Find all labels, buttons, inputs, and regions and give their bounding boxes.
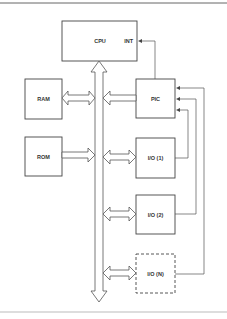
ion-label: I/O (N) (147, 271, 164, 277)
io2-bus-arrow (103, 207, 136, 221)
ion-pic-line (175, 88, 204, 274)
block-diagram: CPU INT RAM PIC ROM I/O (1) I/O (2) I/O … (0, 0, 227, 319)
ion-bus-arrow (103, 266, 136, 280)
rom-bus-arrow (62, 148, 95, 162)
ram-bus-arrow (62, 91, 95, 105)
rom-label: ROM (37, 154, 50, 160)
pic-label: PIC (151, 96, 160, 102)
io1-label: I/O (1) (148, 155, 164, 161)
io1-arrowhead-icon (176, 108, 180, 112)
cpu-label: CPU (94, 38, 106, 44)
io2-arrowhead-icon (176, 97, 180, 101)
int-arrowhead-icon (138, 39, 142, 43)
pic-bus-arrow (103, 91, 136, 105)
ion-arrowhead-icon (176, 86, 180, 90)
io2-label: I/O (2) (148, 212, 164, 218)
io2-pic-line (175, 99, 196, 214)
io1-bus-arrow (103, 150, 136, 164)
ram-label: RAM (37, 96, 50, 102)
io1-pic-line (175, 110, 188, 158)
cpu-int-label: INT (124, 38, 134, 44)
pic-int-line (141, 41, 155, 79)
